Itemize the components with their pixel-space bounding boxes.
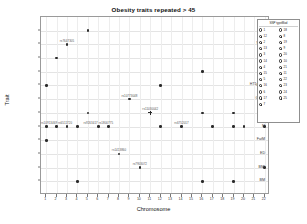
data-point[interactable] — [87, 29, 90, 32]
gridline-vertical — [254, 17, 255, 193]
data-point[interactable] — [201, 70, 204, 73]
x-axis-tick-label: 6 — [96, 197, 98, 201]
x-axis-tick-label: 3 — [65, 197, 67, 201]
legend-symbol-icon — [279, 66, 282, 69]
legend-item-label: 19 — [284, 41, 287, 44]
y-axis-tick-label: M — [262, 124, 265, 128]
data-point[interactable] — [201, 112, 204, 115]
gridline-vertical — [77, 17, 78, 193]
gridline-vertical — [192, 17, 193, 193]
y-axis-tick-mark — [38, 180, 41, 181]
gridline-vertical — [244, 17, 245, 193]
data-point[interactable] — [55, 125, 58, 128]
x-axis-tick-mark — [233, 194, 234, 197]
y-axis-tick-mark — [38, 84, 41, 85]
legend-item-label: 16 — [264, 84, 267, 87]
gridline-vertical — [202, 17, 203, 193]
legend-item[interactable]: 25 — [279, 95, 298, 101]
legend-symbol-icon — [259, 78, 262, 81]
x-axis-tick-label: 16 — [199, 197, 203, 201]
data-point[interactable] — [232, 180, 235, 183]
x-axis-tick-mark — [56, 194, 57, 197]
data-point[interactable] — [180, 125, 183, 128]
x-axis-tick-label: 4 — [75, 197, 77, 201]
legend-symbol-icon — [259, 41, 262, 44]
x-axis-tick-mark — [66, 194, 67, 197]
point-annotation: rs6752017 — [174, 121, 188, 125]
x-axis-tick-label: 18 — [220, 197, 224, 201]
x-axis-tick-label: 9 — [127, 197, 129, 201]
legend-symbol-icon — [279, 59, 282, 62]
x-axis-tick-mark — [128, 194, 129, 197]
legend-item-label: 21 — [284, 66, 287, 69]
legend-symbol-icon — [279, 28, 282, 31]
data-point[interactable] — [45, 139, 48, 142]
gridline-vertical — [234, 17, 235, 193]
x-axis-tick-mark — [264, 194, 265, 197]
legend-item[interactable]: 7 — [259, 101, 278, 107]
y-axis-tick-mark — [38, 57, 41, 58]
x-axis-tick-mark — [160, 194, 161, 197]
data-point[interactable] — [243, 125, 246, 128]
gridline-vertical — [57, 17, 58, 193]
gridline-vertical — [161, 17, 162, 193]
legend-symbol-icon — [279, 47, 282, 50]
x-axis-tick-label: 12 — [158, 197, 162, 201]
data-point[interactable] — [45, 84, 48, 87]
x-axis-tick-mark — [243, 194, 244, 197]
legend-item-label: 18 — [284, 29, 287, 32]
data-point[interactable] — [201, 180, 204, 183]
data-point[interactable] — [76, 180, 79, 183]
x-axis-tick-label: 2 — [55, 197, 57, 201]
x-axis-tick-mark — [108, 194, 109, 197]
point-annotation: rs7647305 — [60, 39, 74, 43]
x-axis-tick-label: 13 — [168, 197, 172, 201]
data-point[interactable] — [76, 125, 79, 128]
x-axis-tick-mark — [118, 194, 119, 197]
data-point[interactable] — [232, 125, 235, 128]
point-annotation: rs7903072 — [133, 162, 147, 166]
legend-item-label: 20 — [284, 53, 287, 56]
x-axis-tick-label: 5 — [86, 197, 88, 201]
legend-item-label: 8 — [284, 35, 286, 38]
x-axis-tick-mark — [253, 194, 254, 197]
y-axis-tick-label: BMI — [259, 165, 265, 169]
legend-body: 1122133144155166177 18819920102111222324… — [259, 27, 298, 107]
data-point[interactable] — [211, 125, 214, 128]
legend-item-label: 2 — [264, 41, 266, 44]
data-point[interactable] — [159, 84, 162, 87]
data-point[interactable] — [159, 125, 162, 128]
x-axis-tick-label: 21 — [251, 197, 255, 201]
x-axis-tick-label: 1 — [44, 197, 46, 201]
legend-item-label: 15 — [264, 72, 267, 75]
legend-item-label: 23 — [284, 84, 287, 87]
gridline-vertical — [88, 17, 89, 193]
legend-symbol-icon — [259, 66, 262, 69]
data-point[interactable] — [232, 112, 235, 115]
legend-symbol-icon — [259, 47, 262, 50]
y-axis-tick-mark — [38, 43, 41, 44]
y-axis-tick-mark — [38, 111, 41, 112]
data-point[interactable] — [97, 125, 100, 128]
data-point[interactable] — [107, 125, 110, 128]
x-axis-tick-label: 11 — [147, 197, 151, 201]
x-axis-tick-label: 14 — [179, 197, 183, 201]
legend-symbol-icon — [259, 53, 262, 56]
point-annotation: rs10773048 — [121, 94, 137, 98]
y-axis-tick-mark — [38, 166, 41, 167]
gridline-vertical — [150, 17, 151, 193]
gridline-vertical — [119, 17, 120, 193]
legend-symbol-icon — [259, 35, 262, 38]
chart-title: Obesity traits repeated > 45 — [0, 6, 307, 13]
y-axis-tick-mark — [38, 125, 41, 126]
x-axis-tick-mark — [181, 194, 182, 197]
legend-symbol-icon — [279, 84, 282, 87]
y-axis-tick-mark — [38, 139, 41, 140]
y-axis-tick-mark — [38, 29, 41, 30]
data-point[interactable] — [139, 166, 142, 169]
legend-symbol-icon — [259, 59, 262, 62]
gridline-vertical — [223, 17, 224, 193]
data-point[interactable] — [148, 111, 152, 115]
x-axis-tick-mark — [149, 194, 150, 197]
data-point[interactable] — [45, 125, 48, 128]
